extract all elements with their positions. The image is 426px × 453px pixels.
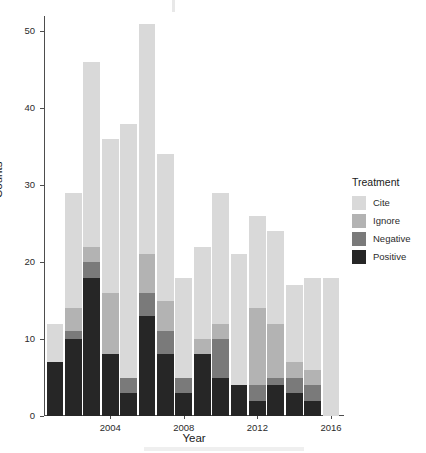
bar-segment-ignore-2004 bbox=[102, 293, 119, 355]
legend-label: Cite bbox=[373, 197, 390, 208]
bar-segment-cite-2003 bbox=[83, 62, 100, 247]
bar-segment-positive-2007 bbox=[157, 354, 174, 416]
bar-segment-ignore-2009 bbox=[194, 339, 211, 354]
scan-artifact-bottom bbox=[144, 447, 304, 451]
bar-segment-ignore-2012 bbox=[249, 308, 266, 385]
bar-2010 bbox=[212, 16, 229, 416]
bar-2002 bbox=[65, 16, 82, 416]
bar-segment-ignore-2007 bbox=[157, 301, 174, 332]
bar-segment-negative-2015 bbox=[304, 385, 321, 400]
bar-segment-ignore-2013 bbox=[267, 324, 284, 378]
bar-segment-cite-2004 bbox=[102, 139, 119, 293]
bar-2016 bbox=[323, 16, 340, 416]
legend-swatch-icon bbox=[352, 214, 366, 228]
bar-segment-cite-2015 bbox=[304, 278, 321, 370]
y-tick-mark bbox=[40, 416, 44, 417]
bar-2007 bbox=[157, 16, 174, 416]
bar-segment-ignore-2010 bbox=[212, 324, 229, 339]
legend-swatch-icon bbox=[352, 196, 366, 210]
bar-segment-cite-2001 bbox=[47, 324, 64, 362]
stacked-bar-chart: 01020304050 2004200820122016 Counts Year… bbox=[0, 0, 426, 453]
bar-segment-positive-2011 bbox=[231, 385, 248, 416]
bar-segment-positive-2014 bbox=[286, 393, 303, 416]
legend: Treatment CiteIgnoreNegativePositive bbox=[352, 176, 411, 266]
bar-segment-cite-2012 bbox=[249, 216, 266, 308]
bar-segment-positive-2004 bbox=[102, 354, 119, 416]
legend-swatch-icon bbox=[352, 232, 366, 246]
bar-segment-positive-2013 bbox=[267, 385, 284, 416]
bar-segment-negative-2012 bbox=[249, 385, 266, 400]
bar-segment-cite-2010 bbox=[212, 193, 229, 324]
bar-segment-positive-2005 bbox=[120, 393, 137, 416]
bar-segment-positive-2015 bbox=[304, 401, 321, 416]
bar-segment-negative-2006 bbox=[139, 293, 156, 316]
bar-segment-positive-2008 bbox=[175, 393, 192, 416]
bar-2009 bbox=[194, 16, 211, 416]
bar-2006 bbox=[139, 16, 156, 416]
bar-segment-positive-2001 bbox=[47, 362, 64, 416]
bar-2015 bbox=[304, 16, 321, 416]
bar-segment-cite-2006 bbox=[139, 24, 156, 255]
bar-2001 bbox=[47, 16, 64, 416]
legend-item-positive[interactable]: Positive bbox=[352, 248, 411, 265]
bar-segment-ignore-2002 bbox=[65, 308, 82, 331]
bar-2014 bbox=[286, 16, 303, 416]
bar-segment-positive-2010 bbox=[212, 378, 229, 416]
bar-segment-positive-2009 bbox=[194, 354, 211, 416]
bar-segment-ignore-2014 bbox=[286, 362, 303, 377]
bar-segment-cite-2013 bbox=[267, 231, 284, 323]
bar-2008 bbox=[175, 16, 192, 416]
bar-segment-cite-2007 bbox=[157, 154, 174, 300]
scan-artifact-top bbox=[172, 0, 175, 12]
bar-segment-ignore-2015 bbox=[304, 370, 321, 385]
legend-items: CiteIgnoreNegativePositive bbox=[352, 194, 411, 265]
legend-item-negative[interactable]: Negative bbox=[352, 230, 411, 247]
bar-segment-negative-2007 bbox=[157, 331, 174, 354]
bar-segment-cite-2009 bbox=[194, 247, 211, 339]
y-tick-label: 0 bbox=[30, 410, 35, 421]
y-tick-label: 10 bbox=[24, 333, 35, 344]
bar-segment-negative-2008 bbox=[175, 378, 192, 393]
bar-2012 bbox=[249, 16, 266, 416]
bar-2011 bbox=[231, 16, 248, 416]
bar-segment-ignore-2003 bbox=[83, 247, 100, 262]
legend-item-ignore[interactable]: Ignore bbox=[352, 212, 411, 229]
bar-segment-negative-2014 bbox=[286, 378, 303, 393]
legend-label: Positive bbox=[373, 251, 406, 262]
bar-segment-negative-2002 bbox=[65, 331, 82, 339]
bar-segment-positive-2003 bbox=[83, 278, 100, 416]
bar-2005 bbox=[120, 16, 137, 416]
plot-area bbox=[44, 16, 342, 416]
bar-segment-positive-2002 bbox=[65, 339, 82, 416]
y-tick-label: 30 bbox=[24, 179, 35, 190]
x-axis-title: Year bbox=[44, 432, 344, 444]
bar-segment-negative-2010 bbox=[212, 339, 229, 377]
bar-2003 bbox=[83, 16, 100, 416]
bar-segment-cite-2002 bbox=[65, 193, 82, 308]
bar-2013 bbox=[267, 16, 284, 416]
y-tick-label: 20 bbox=[24, 256, 35, 267]
bar-segment-positive-2006 bbox=[139, 316, 156, 416]
legend-label: Ignore bbox=[373, 215, 400, 226]
legend-swatch-icon bbox=[352, 250, 366, 264]
bar-segment-cite-2014 bbox=[286, 285, 303, 362]
bar-segment-negative-2005 bbox=[120, 378, 137, 393]
y-axis-title: Counts bbox=[0, 162, 4, 198]
bar-segment-ignore-2006 bbox=[139, 254, 156, 292]
legend-label: Negative bbox=[373, 233, 411, 244]
bar-segment-cite-2005 bbox=[120, 124, 137, 378]
legend-title: Treatment bbox=[352, 176, 411, 188]
bar-segment-cite-2011 bbox=[231, 254, 248, 385]
y-tick-label: 50 bbox=[24, 25, 35, 36]
bar-segment-cite-2008 bbox=[175, 278, 192, 378]
bar-segment-negative-2003 bbox=[83, 262, 100, 277]
bar-2004 bbox=[102, 16, 119, 416]
y-tick-label: 40 bbox=[24, 102, 35, 113]
bar-segment-cite-2016 bbox=[323, 278, 340, 416]
bar-segment-positive-2012 bbox=[249, 401, 266, 416]
legend-item-cite[interactable]: Cite bbox=[352, 194, 411, 211]
bar-segment-negative-2013 bbox=[267, 378, 284, 386]
